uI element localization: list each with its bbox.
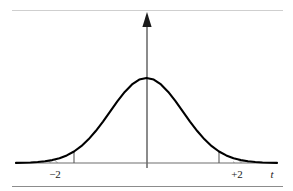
figure-container: −2 +2 t <box>0 0 293 191</box>
x-axis-label: t <box>270 168 274 180</box>
y-axis-arrowhead-icon <box>142 12 151 27</box>
statistics-density-figure: −2 +2 t <box>0 0 293 191</box>
tick-label-plus-2: +2 <box>231 168 243 180</box>
tick-label-minus-2: −2 <box>49 168 61 180</box>
